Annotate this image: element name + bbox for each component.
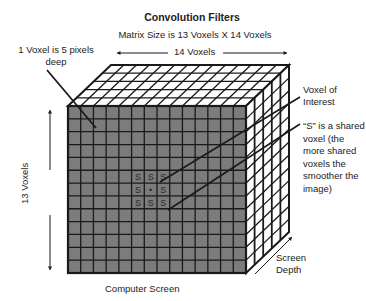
width-arrow-right-head bbox=[284, 51, 287, 55]
shared-voxel-marker: S bbox=[135, 198, 141, 208]
shared-voxel-marker: S bbox=[148, 172, 154, 182]
voxel-cube-diagram: SSSS•SSSS bbox=[0, 0, 366, 301]
voxel-of-interest-marker: • bbox=[149, 185, 152, 195]
width-arrow-left-head bbox=[117, 51, 120, 55]
shared-voxel-marker: S bbox=[160, 185, 166, 195]
shared-voxel-marker: S bbox=[135, 185, 141, 195]
height-arrow-bottom-head bbox=[48, 267, 52, 270]
shared-voxel-marker: S bbox=[135, 172, 141, 182]
height-arrow-top-head bbox=[48, 110, 52, 113]
shared-voxel-marker: S bbox=[160, 198, 166, 208]
shared-voxel-marker: S bbox=[148, 198, 154, 208]
